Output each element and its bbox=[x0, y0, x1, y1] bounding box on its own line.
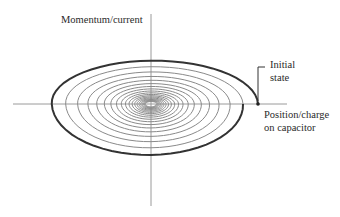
x-axis-label-line2: on capacitor bbox=[264, 122, 316, 134]
initial-state-point bbox=[256, 102, 260, 106]
initial-state-label-line1: Initial bbox=[270, 59, 295, 71]
initial-state-label-line2: state bbox=[270, 72, 289, 84]
damped-spiral-trajectory bbox=[52, 61, 258, 155]
initial-state-leader bbox=[258, 67, 265, 101]
y-axis-label: Momentum/current bbox=[61, 14, 143, 26]
x-axis-label-line1: Position/charge bbox=[264, 109, 329, 121]
